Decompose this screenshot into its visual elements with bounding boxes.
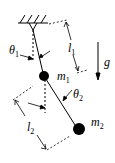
gravity-arrow-icon bbox=[96, 42, 100, 80]
angle-1-arrows bbox=[20, 51, 50, 60]
m1-label: m1 bbox=[57, 69, 70, 85]
m2-label: m2 bbox=[91, 115, 104, 131]
rod-2 bbox=[44, 76, 75, 125]
rod-1 bbox=[33, 30, 43, 73]
g-label: g bbox=[104, 55, 110, 69]
theta2-label: θ2 bbox=[73, 87, 83, 103]
mass-2 bbox=[73, 123, 85, 135]
theta1-label: θ1 bbox=[9, 43, 19, 59]
l2-label: l2 bbox=[27, 120, 34, 136]
double-pendulum-diagram: θ1 l1 g m1 θ2 l2 m2 bbox=[0, 0, 115, 163]
length-2-dimension bbox=[13, 86, 70, 150]
angle-2-arrows bbox=[28, 90, 72, 109]
l1-label: l1 bbox=[68, 41, 75, 57]
ceiling-support bbox=[18, 15, 48, 30]
